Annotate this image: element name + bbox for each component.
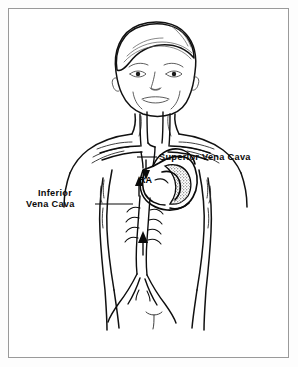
torso-left [107, 170, 114, 290]
cheek-right [171, 91, 180, 109]
torso-arms-group [64, 170, 247, 330]
label-inferior-vena-cava-line1: Inferior [38, 188, 72, 198]
valve-line [155, 179, 168, 183]
eyebrow-right [164, 63, 183, 67]
arm-right-outer [241, 173, 247, 207]
flank-stroke-r1 [207, 180, 208, 198]
neck-right [175, 114, 179, 134]
jugular-left-medial [147, 112, 148, 143]
ivc-branch-r1 [150, 209, 163, 214]
iliac-branch-left [136, 290, 139, 300]
ivc-right-wall [146, 198, 150, 275]
clavicle-right [179, 142, 214, 149]
jugular-left-lateral [140, 114, 141, 146]
svc-left-wall [141, 152, 143, 168]
neck-left [132, 114, 135, 134]
iliac-vein-right-outer [147, 275, 176, 323]
illustration-page: Superior Vena Cava Inferior Vena Cava RA [0, 0, 298, 367]
ivc-branch-r2 [149, 219, 162, 224]
mouth-upper [142, 97, 169, 99]
arm-right-inner [204, 178, 211, 330]
head-outline [115, 22, 195, 116]
labels-group: Superior Vena Cava Inferior Vena Cava RA [26, 152, 251, 209]
hair-stroke-3 [133, 38, 163, 48]
clavicle-left [97, 142, 132, 149]
nose [151, 72, 160, 90]
ivc-branch-l2 [126, 217, 139, 222]
anatomy-figure: Superior Vena Cava Inferior Vena Cava RA [0, 0, 298, 367]
ventricle-muscle [165, 165, 191, 205]
label-right-atrium: RA [139, 175, 152, 185]
label-inferior-vena-cava-line2: Vena Cava [26, 199, 75, 209]
jugular-right-lateral [169, 114, 170, 146]
flank-stroke-l1 [103, 180, 104, 198]
ivc-branch-r3 [148, 229, 161, 234]
flank-stroke-r3 [208, 208, 209, 228]
svc-junction [148, 143, 155, 147]
chest-stroke-left-2 [92, 151, 124, 163]
navel-lower [153, 315, 154, 329]
cheek-left [133, 92, 142, 109]
ivc-branch-l1 [127, 207, 140, 212]
pupil-left [136, 72, 140, 76]
inferior-vena-cava-group [108, 196, 176, 323]
hip-right [192, 290, 197, 328]
ivc-branch-l4 [125, 237, 138, 242]
eyebrow-left [129, 63, 148, 67]
mouth-lower [143, 100, 168, 103]
face-group [129, 63, 183, 109]
label-superior-vena-cava: Superior Vena Cava [159, 152, 251, 162]
pupil-right [172, 72, 176, 76]
arm-left-inner [100, 178, 107, 330]
ivc-mid-arrow [138, 231, 148, 243]
subclavian-left-lower [102, 152, 142, 160]
head-group [112, 22, 199, 116]
flank-stroke-l3 [102, 208, 103, 228]
torso-right [197, 170, 204, 290]
ivc-branch-r4 [148, 239, 161, 244]
